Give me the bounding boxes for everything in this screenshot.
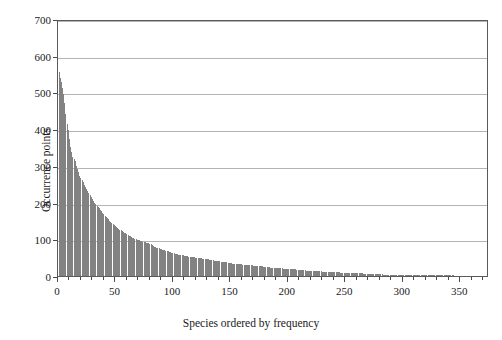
x-tick-mark-minor bbox=[149, 277, 150, 280]
x-tick-mark-minor bbox=[367, 277, 368, 280]
x-tick-label: 100 bbox=[164, 286, 181, 297]
x-tick-mark-minor bbox=[206, 277, 207, 280]
x-tick-mark-minor bbox=[333, 277, 334, 280]
y-tick-label: 600 bbox=[17, 51, 51, 62]
y-tick-label: 400 bbox=[17, 125, 51, 136]
x-tick-mark-minor bbox=[310, 277, 311, 280]
x-tick-mark-major bbox=[57, 277, 58, 282]
x-tick-mark-minor bbox=[321, 277, 322, 280]
x-tick-mark-major bbox=[114, 277, 115, 282]
x-tick-mark-minor bbox=[379, 277, 380, 280]
x-tick-mark-major bbox=[172, 277, 173, 282]
y-tick-label: 200 bbox=[17, 198, 51, 209]
x-tick-mark-major bbox=[459, 277, 460, 282]
x-tick-mark-minor bbox=[298, 277, 299, 280]
x-tick-mark-minor bbox=[425, 277, 426, 280]
y-tick-label: 500 bbox=[17, 88, 51, 99]
occurrence-points-bar-chart: Occurrence points 0100200300400500600700… bbox=[0, 0, 502, 340]
x-tick-mark-minor bbox=[275, 277, 276, 280]
x-tick-mark-minor bbox=[80, 277, 81, 280]
x-tick-label: 0 bbox=[54, 286, 60, 297]
x-tick-mark-minor bbox=[356, 277, 357, 280]
x-tick-label: 350 bbox=[451, 286, 468, 297]
y-tick-label: 100 bbox=[17, 235, 51, 246]
x-tick-mark-major bbox=[287, 277, 288, 282]
x-tick-mark-minor bbox=[68, 277, 69, 280]
x-tick-mark-minor bbox=[183, 277, 184, 280]
x-tick-mark-minor bbox=[195, 277, 196, 280]
x-tick-mark-minor bbox=[264, 277, 265, 280]
y-tick-mark bbox=[53, 20, 57, 21]
x-axis-title: Species ordered by frequency bbox=[0, 317, 502, 329]
y-tick-mark bbox=[53, 93, 57, 94]
x-tick-mark-minor bbox=[160, 277, 161, 280]
x-tick-mark-minor bbox=[137, 277, 138, 280]
x-tick-mark-minor bbox=[390, 277, 391, 280]
x-tick-mark-minor bbox=[482, 277, 483, 280]
x-tick-label: 50 bbox=[109, 286, 120, 297]
x-tick-label: 150 bbox=[221, 286, 238, 297]
plot-area bbox=[57, 20, 488, 277]
x-tick-mark-minor bbox=[252, 277, 253, 280]
x-tick-label: 200 bbox=[279, 286, 296, 297]
x-tick-mark-major bbox=[402, 277, 403, 282]
x-tick-label: 250 bbox=[336, 286, 353, 297]
y-tick-mark bbox=[53, 57, 57, 58]
x-tick-mark-major bbox=[229, 277, 230, 282]
x-tick-mark-minor bbox=[413, 277, 414, 280]
y-tick-mark bbox=[53, 204, 57, 205]
x-tick-label: 300 bbox=[394, 286, 411, 297]
y-tick-label: 0 bbox=[17, 272, 51, 283]
y-tick-label: 700 bbox=[17, 15, 51, 26]
x-tick-mark-minor bbox=[436, 277, 437, 280]
x-tick-mark-minor bbox=[91, 277, 92, 280]
bar-series bbox=[58, 21, 487, 276]
y-tick-label: 300 bbox=[17, 161, 51, 172]
x-tick-mark-minor bbox=[471, 277, 472, 280]
x-tick-mark-minor bbox=[126, 277, 127, 280]
x-tick-mark-major bbox=[344, 277, 345, 282]
y-tick-mark bbox=[53, 240, 57, 241]
x-tick-mark-minor bbox=[448, 277, 449, 280]
x-tick-mark-minor bbox=[241, 277, 242, 280]
bar bbox=[453, 275, 454, 276]
y-tick-mark bbox=[53, 130, 57, 131]
x-tick-mark-minor bbox=[218, 277, 219, 280]
y-tick-mark bbox=[53, 167, 57, 168]
x-tick-mark-minor bbox=[103, 277, 104, 280]
